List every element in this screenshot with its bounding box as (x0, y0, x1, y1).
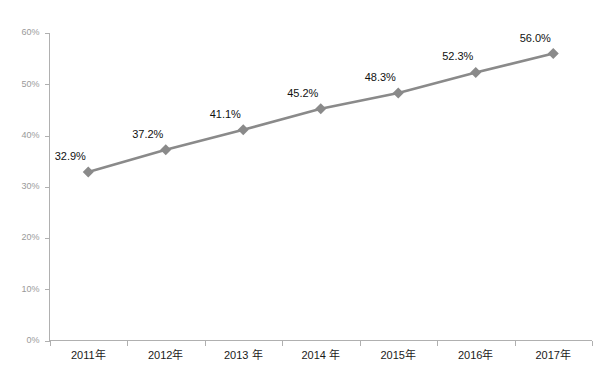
data-point-marker[interactable] (470, 67, 481, 78)
chart-container: 0%10%20%30%40%50%60% 32.9%37.2%41.1%45.2… (0, 0, 603, 391)
x-axis-tick-label: 2015年 (381, 348, 416, 361)
x-axis-ticks (51, 341, 593, 346)
data-point-label: 37.2% (132, 128, 163, 140)
y-axis-tick-label: 0% (26, 335, 39, 345)
y-axis-tick-label: 50% (21, 79, 39, 89)
y-axis-ticks: 0%10%20%30%40%50%60% (21, 27, 49, 345)
data-point-labels: 32.9%37.2%41.1%45.2%48.3%52.3%56.0% (55, 32, 551, 162)
figure-caption (0, 379, 603, 391)
y-axis-tick-label: 40% (21, 130, 39, 140)
x-axis-tick-label: 2013 年 (224, 348, 263, 361)
data-point-marker[interactable] (238, 124, 249, 135)
data-point-label: 52.3% (442, 50, 473, 62)
data-point-marker[interactable] (393, 87, 404, 98)
x-axis-tick-label: 2017年 (536, 348, 571, 361)
x-axis-tick-label: 2012年 (148, 348, 183, 361)
y-axis-tick-label: 60% (21, 27, 39, 37)
x-axis-labels: 2011年2012年2013 年2014 年2015年2016年2017年 (71, 348, 571, 361)
data-series (83, 48, 559, 177)
x-axis-tick-label: 2014 年 (301, 348, 340, 361)
x-axis (50, 341, 593, 346)
data-point-label: 32.9% (55, 150, 86, 162)
y-axis-tick-label: 30% (21, 181, 39, 191)
data-point-marker[interactable] (548, 48, 559, 59)
line-chart: 0%10%20%30%40%50%60% 32.9%37.2%41.1%45.2… (0, 0, 603, 391)
data-point-label: 45.2% (287, 87, 318, 99)
data-point-marker[interactable] (83, 166, 94, 177)
data-markers (83, 48, 559, 177)
data-point-label: 41.1% (210, 108, 241, 120)
data-point-label: 48.3% (365, 71, 396, 83)
data-point-marker[interactable] (160, 144, 171, 155)
x-axis-tick-label: 2016年 (458, 348, 493, 361)
y-axis-tick-label: 10% (21, 284, 39, 294)
y-axis-tick-label: 20% (21, 232, 39, 242)
data-point-marker[interactable] (315, 103, 326, 114)
data-point-label: 56.0% (520, 32, 551, 44)
y-axis: 0%10%20%30%40%50%60% (21, 27, 49, 345)
x-axis-tick-label: 2011年 (71, 348, 106, 361)
